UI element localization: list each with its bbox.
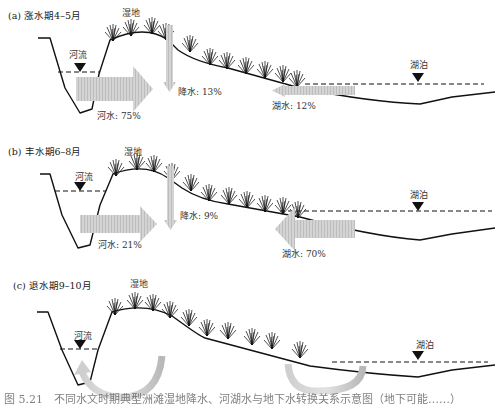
wetland-grass-icons [108, 153, 306, 218]
wetland-label: 湿地 [130, 278, 148, 289]
precipitation-flow-label: 降水: 13% [178, 86, 222, 97]
lake-inflow-arrow-icon [275, 207, 355, 251]
terrain-profile [40, 169, 495, 248]
lake-label: 湖泊 [410, 60, 428, 70]
wetland-label: 湿地 [124, 146, 142, 157]
panel-c-title: (c) 退水期9–10月 [13, 280, 92, 291]
river-return-arrowhead-icon [74, 360, 91, 375]
panel-b: (b) 丰水期6–8月 湿地 河流 湖泊 河水: 21% 降水: 9% 湖水: … [8, 146, 495, 259]
river-label: 河流 [75, 171, 93, 182]
panel-a: (a) 涨水期4–5月 湿地 河流 湖泊 河水: 75% 降水: 13% 湖水:… [8, 7, 495, 121]
lake-level-marker-icon [412, 351, 424, 360]
wetland-label: 湿地 [122, 7, 140, 18]
river-flow-label: 河水: 75% [97, 110, 141, 121]
river-level-marker-icon [74, 63, 86, 72]
figure-caption: 图 5.21 不同水文时期典型洲滩湿地降水、河湖水与地下水转换关系示意图（地下可… [4, 390, 461, 406]
precipitation-flow-label: 降水: 9% [180, 210, 219, 221]
river-inflow-arrow-icon [76, 66, 153, 112]
lake-level-marker-icon [412, 202, 424, 211]
river-label: 河流 [69, 49, 87, 60]
lake-flow-label: 湖水: 70% [282, 248, 326, 259]
river-label: 河流 [74, 330, 92, 341]
panel-c: (c) 退水期9–10月 湿地 河流 湖泊 [13, 278, 495, 397]
precipitation-arrow-icon [164, 166, 177, 230]
panel-b-title: (b) 丰水期6–8月 [8, 146, 81, 157]
lake-label: 湖泊 [416, 340, 434, 350]
river-flow-label: 河水: 21% [98, 239, 142, 250]
river-level-marker-icon [74, 340, 86, 349]
lake-label: 湖泊 [410, 190, 428, 200]
panel-a-title: (a) 涨水期4–5月 [8, 10, 81, 21]
river-level-marker-icon [74, 182, 86, 191]
wetland-grass-icons [107, 292, 308, 358]
lake-level-marker-icon [412, 73, 424, 82]
lake-flow-label: 湖水: 12% [272, 100, 316, 111]
